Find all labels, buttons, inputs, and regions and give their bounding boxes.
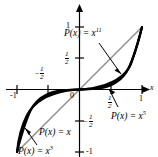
label-p-x3-exponent: 3 bbox=[50, 144, 53, 151]
x-tick-neg-half-numerator: 1 bbox=[40, 66, 44, 73]
y-tick-neg-half-numerator: 1 bbox=[89, 114, 93, 121]
label-p-x3-text: P(x) = x bbox=[18, 146, 50, 156]
label-p-x3: P(x) = x3 bbox=[18, 147, 53, 157]
label-p-x11-exponent: 11 bbox=[96, 26, 102, 33]
x-tick-neg-half-sign: − bbox=[35, 70, 40, 78]
y-tick-half-denominator: 2 bbox=[65, 58, 69, 66]
x-tick-label-1: 1 bbox=[139, 95, 143, 103]
label-p-x5-text: P(x) = x bbox=[111, 111, 143, 121]
y-tick-neg-half-sign: − bbox=[83, 118, 88, 126]
y-tick-label-neg-half: − 1 2 bbox=[89, 114, 93, 129]
x-tick-neg-half-denominator: 2 bbox=[40, 73, 44, 81]
label-p-x1-text: P(x) = x bbox=[39, 127, 71, 137]
x-axis-arrow bbox=[142, 86, 150, 93]
x-tick-label-half: 1 2 bbox=[108, 95, 112, 110]
label-p-x5-exponent: 5 bbox=[143, 109, 146, 116]
label-p-x11: P(x) = x11 bbox=[64, 29, 102, 39]
x-axis-label: x bbox=[150, 84, 154, 92]
figure-canvas: P(x) = x11 P(x) = x5 P(x) = x P(x) = x3 … bbox=[0, 0, 158, 157]
y-tick-label-1: 1 bbox=[66, 22, 70, 30]
y-tick-half-numerator: 1 bbox=[65, 51, 69, 58]
leader-arrow-x11 bbox=[115, 68, 122, 74]
label-p-x1: P(x) = x bbox=[39, 128, 71, 138]
x-tick-label-neg1: -1 bbox=[10, 92, 17, 100]
x-tick-half-denominator: 2 bbox=[108, 102, 112, 110]
origin-label: 0 bbox=[70, 92, 74, 100]
plot-svg bbox=[0, 0, 158, 157]
y-tick-neg-half-denominator: 2 bbox=[89, 121, 93, 129]
y-tick-label-neg1: -1 bbox=[86, 148, 93, 156]
x-tick-label-neg-half: − 1 2 bbox=[40, 66, 44, 81]
x-tick-half-numerator: 1 bbox=[108, 95, 112, 102]
y-axis-arrow bbox=[76, 4, 83, 12]
y-tick-label-half: 1 2 bbox=[65, 51, 69, 66]
leader-arrow-x3 bbox=[25, 128, 31, 135]
label-p-x5: P(x) = x5 bbox=[111, 112, 146, 122]
